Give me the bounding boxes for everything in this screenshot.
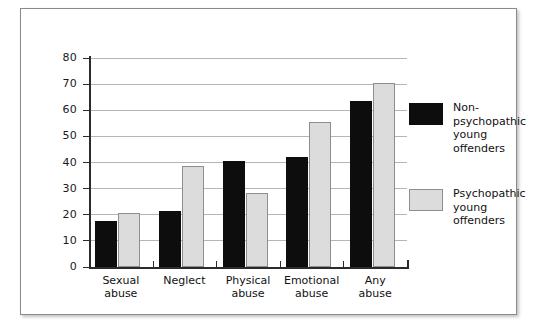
legend-label-line: psychopathic — [453, 115, 533, 129]
x-axis-tick — [280, 261, 281, 269]
y-axis-tick-label: 30 — [37, 182, 77, 195]
bar — [246, 193, 268, 267]
bar — [373, 83, 395, 267]
legend-label-line: young — [453, 128, 533, 142]
x-axis-category-label-line: Any — [335, 274, 415, 287]
x-axis-category-label-line: abuse — [81, 287, 161, 300]
bar — [118, 213, 140, 267]
figure: 01020304050607080 SexualabuseNeglectPhys… — [0, 0, 533, 331]
legend-label-psychopathic: Psychopathic young offenders — [453, 187, 533, 228]
bar — [182, 166, 204, 267]
bar — [159, 211, 181, 267]
bar — [95, 221, 117, 267]
legend-swatch-non-psychopathic — [409, 103, 443, 125]
y-axis-tick-label: 10 — [37, 234, 77, 247]
bar — [350, 101, 372, 267]
y-axis-tick-label: 70 — [37, 77, 77, 90]
legend-label-non-psychopathic: Non- psychopathic young offenders — [453, 101, 533, 155]
bar — [286, 157, 308, 267]
y-axis-tick-label: 20 — [37, 208, 77, 221]
gridline — [89, 58, 407, 59]
bar — [223, 161, 245, 267]
x-axis-line — [89, 267, 409, 269]
y-axis-tick-label: 60 — [37, 103, 77, 116]
x-axis-right-cap — [407, 260, 409, 269]
bar — [309, 122, 331, 267]
gridline — [89, 84, 407, 85]
x-axis-tick — [216, 261, 217, 269]
chart-frame: 01020304050607080 SexualabuseNeglectPhys… — [20, 8, 517, 315]
x-axis-category-label-line: abuse — [335, 287, 415, 300]
legend-label-line: Psychopathic — [453, 187, 533, 201]
y-axis-tick-label: 50 — [37, 129, 77, 142]
y-axis-tick-label: 40 — [37, 156, 77, 169]
x-axis-tick — [343, 261, 344, 269]
x-axis-tick — [153, 261, 154, 269]
legend-swatch-psychopathic — [409, 189, 443, 211]
legend-label-line: offenders — [453, 214, 533, 228]
y-axis-line — [89, 56, 91, 269]
y-axis-tick-label: 0 — [37, 260, 77, 273]
legend-label-line: young — [453, 201, 533, 215]
legend-label-line: offenders — [453, 142, 533, 156]
legend-label-line: Non- — [453, 101, 533, 115]
y-axis-tick-label: 80 — [37, 51, 77, 64]
x-axis-category-label: Anyabuse — [335, 274, 415, 300]
